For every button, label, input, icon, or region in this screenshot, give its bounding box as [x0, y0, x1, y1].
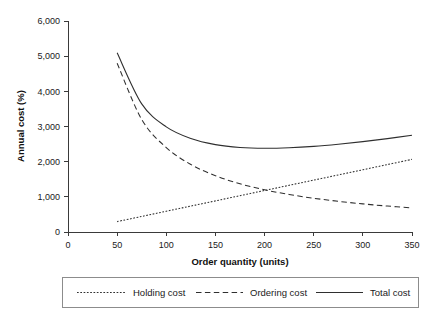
- legend-label-ordering-cost: Ordering cost: [250, 287, 307, 298]
- x-tick-label: 50: [112, 240, 122, 250]
- y-tick-label: 5,000: [37, 51, 60, 61]
- eoq-cost-chart: 01,0002,0003,0004,0005,0006,000 Annual c…: [0, 0, 431, 320]
- series-line-holding-cost: [117, 159, 412, 221]
- series-line-ordering-cost: [117, 63, 412, 208]
- y-tick-label: 6,000: [37, 16, 60, 26]
- x-tick-label: 350: [404, 240, 419, 250]
- x-tick-label: 200: [257, 240, 272, 250]
- x-tick-group: 050100150200250300350: [65, 232, 419, 250]
- y-axis: 01,0002,0003,0004,0005,0006,000 Annual c…: [15, 16, 68, 237]
- x-tick-label: 0: [65, 240, 70, 250]
- y-tick-label: 3,000: [37, 122, 60, 132]
- y-axis-title: Annual cost (%): [15, 90, 26, 162]
- series-line-total-cost: [117, 53, 412, 148]
- y-tick-label: 1,000: [37, 192, 60, 202]
- x-axis-title: Order quantity (units): [191, 256, 288, 267]
- x-tick-label: 100: [159, 240, 174, 250]
- x-tick-label: 250: [306, 240, 321, 250]
- legend-label-total-cost: Total cost: [370, 287, 410, 298]
- x-tick-label: 150: [208, 240, 223, 250]
- legend: Holding costOrdering costTotal cost: [63, 278, 419, 308]
- y-tick-label: 0: [55, 227, 60, 237]
- series-group: [117, 53, 412, 222]
- y-tick-label: 2,000: [37, 157, 60, 167]
- x-tick-label: 300: [355, 240, 370, 250]
- x-axis: 050100150200250300350 Order quantity (un…: [65, 232, 419, 267]
- y-tick-label: 4,000: [37, 87, 60, 97]
- y-tick-group: 01,0002,0003,0004,0005,0006,000: [37, 16, 68, 237]
- legend-label-holding-cost: Holding cost: [133, 287, 186, 298]
